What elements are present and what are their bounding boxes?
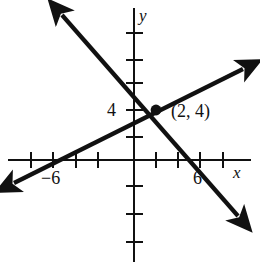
increasing-line bbox=[14, 69, 243, 183]
y-tick-label-4: 4 bbox=[107, 101, 116, 119]
x-axis-label: x bbox=[233, 164, 241, 181]
graph-canvas bbox=[0, 0, 260, 269]
intersection-point-marker bbox=[151, 105, 162, 116]
y-axis-label: y bbox=[139, 7, 147, 24]
x-tick-label-6: 6 bbox=[193, 169, 202, 187]
x-tick-label-negative-6: −6 bbox=[41, 169, 60, 187]
decreasing-line bbox=[62, 15, 238, 216]
intersection-point-label: (2, 4) bbox=[171, 102, 210, 120]
coordinate-graph-figure: y x 4 −6 6 (2, 4) bbox=[0, 0, 260, 269]
